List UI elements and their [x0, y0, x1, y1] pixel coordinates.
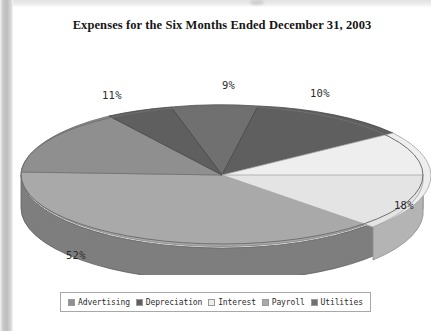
- scan-artifact: [250, 0, 264, 5]
- legend-label: Depreciation: [146, 298, 203, 307]
- legend-item-interest[interactable]: Interest: [208, 298, 256, 307]
- chart-legend: Advertising Depreciation Interest Payrol…: [60, 292, 371, 312]
- scan-edge-left: [0, 0, 13, 331]
- legend-label: Advertising: [78, 298, 130, 307]
- legend-label: Utilities: [321, 298, 363, 307]
- legend-item-utilities[interactable]: Utilities: [311, 298, 363, 307]
- pie-chart-svg: [13, 75, 431, 275]
- pie-label-depreciation: 10%: [310, 87, 330, 99]
- scan-edge-top: [0, 0, 431, 7]
- legend-item-advertising[interactable]: Advertising: [68, 298, 130, 307]
- legend-item-payroll[interactable]: Payroll: [262, 298, 305, 307]
- legend-swatch-icon: [68, 299, 75, 306]
- scanned-page: Expenses for the Six Months Ended Decemb…: [0, 0, 431, 331]
- pie-label-payroll: 52%: [66, 249, 86, 261]
- chart-title: Expenses for the Six Months Ended Decemb…: [13, 18, 431, 33]
- legend-swatch-icon: [262, 299, 269, 306]
- legend-swatch-icon: [311, 299, 318, 306]
- pie-label-interest: 18%: [394, 199, 414, 211]
- page-body: Expenses for the Six Months Ended Decemb…: [13, 7, 431, 331]
- pie-label-utilities: 9%: [222, 79, 235, 91]
- legend-label: Payroll: [272, 298, 305, 307]
- pie-chart: 9% 10% 11% 18% 52%: [13, 75, 431, 275]
- pie-label-advertising: 11%: [102, 89, 122, 101]
- legend-swatch-icon: [136, 299, 143, 306]
- legend-label: Interest: [218, 298, 256, 307]
- legend-swatch-icon: [208, 299, 215, 306]
- legend-item-depreciation[interactable]: Depreciation: [136, 298, 203, 307]
